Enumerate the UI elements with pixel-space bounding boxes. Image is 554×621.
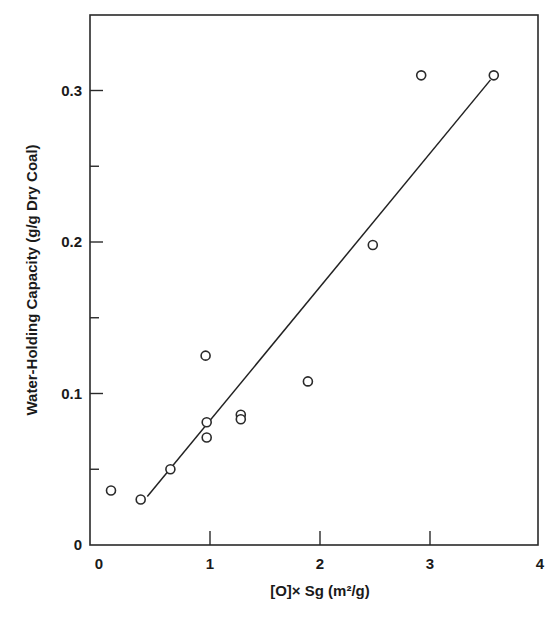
regression-line <box>147 80 490 497</box>
data-point-circle <box>166 465 175 474</box>
x-tick-label: 4 <box>536 555 545 572</box>
x-axis-ticks: 01234 <box>95 531 545 572</box>
data-point-circle <box>107 486 116 495</box>
data-point-circle <box>368 241 377 250</box>
y-tick-label: 0.3 <box>61 82 82 99</box>
plot-border <box>90 15 538 545</box>
y-tick-label: 0.1 <box>61 385 82 402</box>
data-point-circle <box>201 351 210 360</box>
scatter-chart: 01234 00.10.20.3 [O]× Sg (m²/g) Water-Ho… <box>0 0 554 621</box>
data-point-circle <box>136 495 145 504</box>
y-axis-label: Water-Holding Capacity (g/g Dry Coal) <box>23 144 40 415</box>
y-tick-label: 0.2 <box>61 233 82 250</box>
data-point-circle <box>303 377 312 386</box>
data-point-circle <box>236 415 245 424</box>
fit-line <box>147 80 490 497</box>
data-point-circle <box>417 71 426 80</box>
plot-frame <box>90 15 538 545</box>
y-tick-label: 0 <box>74 536 82 553</box>
x-tick-label: 0 <box>95 555 103 572</box>
y-axis-ticks: 00.10.20.3 <box>61 82 103 554</box>
data-point-circle <box>202 418 211 427</box>
x-tick-label: 3 <box>426 555 434 572</box>
data-points <box>107 71 499 504</box>
x-tick-label: 2 <box>316 555 324 572</box>
data-point-circle <box>202 433 211 442</box>
x-axis-label: [O]× Sg (m²/g) <box>270 582 370 599</box>
x-tick-label: 1 <box>206 555 214 572</box>
data-point-circle <box>489 71 498 80</box>
